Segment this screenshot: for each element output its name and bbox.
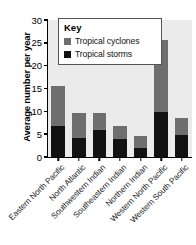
y-tick-mark xyxy=(44,156,48,157)
chart-container: Average number per year 051015202530 Eas… xyxy=(0,0,196,245)
bar-group xyxy=(51,86,65,157)
x-tick-mark xyxy=(181,157,182,161)
bar-group xyxy=(134,136,148,157)
bar-segment-tropical-storms xyxy=(175,135,189,157)
bar-segment-tropical-storms xyxy=(51,126,65,158)
x-axis-label: Southwestern Indian xyxy=(50,163,108,221)
bar-segment-tropical-storms xyxy=(134,148,148,157)
x-axis-label: Southeastern Indian xyxy=(72,163,129,220)
x-tick-mark xyxy=(160,157,161,161)
legend-swatch-icon xyxy=(64,51,71,58)
y-tick-mark xyxy=(44,65,48,66)
bar-segment-tropical-cyclones xyxy=(113,126,127,139)
x-tick-mark xyxy=(99,157,100,161)
legend-box: Key Tropical cyclones Tropical storms xyxy=(58,18,162,65)
x-tick-mark xyxy=(119,157,120,161)
y-tick-label: 20 xyxy=(31,59,42,72)
bar-segment-tropical-storms xyxy=(93,130,107,157)
bar-segment-tropical-cyclones xyxy=(134,136,148,148)
bar-group xyxy=(113,126,127,157)
y-tick-label: 15 xyxy=(31,82,42,95)
bar-group xyxy=(72,113,86,157)
y-tick-mark xyxy=(44,42,48,43)
y-tick-mark xyxy=(44,133,48,134)
bar-segment-tropical-cyclones xyxy=(72,113,86,139)
x-axis-label: Western North Pacific xyxy=(109,163,170,224)
y-tick-label: 0 xyxy=(37,151,42,164)
legend-item-label: Tropical storms xyxy=(75,48,132,60)
y-tick-mark xyxy=(44,111,48,112)
y-tick-label: 30 xyxy=(31,14,42,27)
y-tick-label: 10 xyxy=(31,105,42,118)
x-axis-label: Western South Pacific xyxy=(128,163,190,225)
legend-title: Key xyxy=(64,22,156,34)
legend-swatch-icon xyxy=(64,38,71,45)
bar-segment-tropical-cyclones xyxy=(51,86,65,125)
bar-group xyxy=(93,113,107,157)
y-axis-title-text: Average number per year xyxy=(21,32,32,142)
bar-group xyxy=(175,118,189,157)
bar-segment-tropical-storms xyxy=(72,138,86,157)
x-axis-label: North Atlantic xyxy=(47,163,87,203)
x-tick-mark xyxy=(78,157,79,161)
y-tick-label: 25 xyxy=(31,36,42,49)
x-axis-label: Northern Indian xyxy=(104,163,149,208)
x-axis-label: Eastern North Pacific xyxy=(7,163,66,222)
x-tick-mark xyxy=(140,157,141,161)
y-tick-mark xyxy=(44,19,48,20)
y-tick-mark xyxy=(44,88,48,89)
bar-segment-tropical-storms xyxy=(113,139,127,157)
legend-item-label: Tropical cyclones xyxy=(75,35,139,47)
y-tick-label: 5 xyxy=(37,128,42,141)
bar-segment-tropical-storms xyxy=(154,112,168,157)
legend-item-tropical-storms: Tropical storms xyxy=(64,48,156,60)
bar-segment-tropical-cyclones xyxy=(175,118,189,135)
bar-segment-tropical-cyclones xyxy=(93,113,107,130)
legend-item-tropical-cyclones: Tropical cyclones xyxy=(64,35,156,47)
x-tick-mark xyxy=(58,157,59,161)
